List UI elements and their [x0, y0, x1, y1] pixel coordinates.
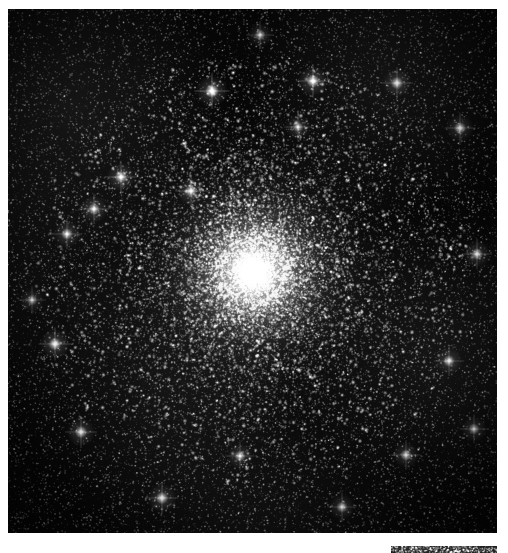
screenshot-root: Dense spherical globular star cluster wi…: [0, 0, 508, 553]
image-strip-fragment: Thin dark horizontal fragment of an adja…: [391, 546, 497, 553]
plate-vignette: [8, 9, 497, 533]
bright-star-layer: [8, 9, 497, 533]
sky-background-noise: [8, 9, 497, 533]
globular-cluster-plate: Dense spherical globular star cluster wi…: [8, 9, 497, 533]
resolved-star-field: [8, 9, 497, 533]
plate-alt-text: Dense spherical globular star cluster wi…: [8, 9, 9, 10]
cluster-core-glow: [8, 9, 497, 533]
strip-background-noise: [391, 546, 497, 553]
